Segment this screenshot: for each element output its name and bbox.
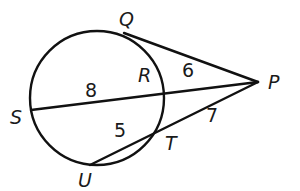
- secant-segment-ps: [31, 82, 258, 110]
- point-label-r: R: [138, 64, 151, 86]
- length-label-sr: 8: [85, 79, 97, 101]
- length-label-ut: 5: [114, 119, 126, 141]
- point-label-s: S: [10, 106, 22, 128]
- length-label-tp: 7: [206, 104, 218, 126]
- point-label-q: Q: [119, 8, 134, 30]
- point-label-p: P: [268, 71, 280, 93]
- point-label-u: U: [78, 169, 92, 191]
- point-label-t: T: [165, 132, 178, 154]
- diagram-canvas: Q P R S T U 8 6 5 7: [0, 0, 300, 191]
- length-label-rp: 6: [182, 59, 194, 81]
